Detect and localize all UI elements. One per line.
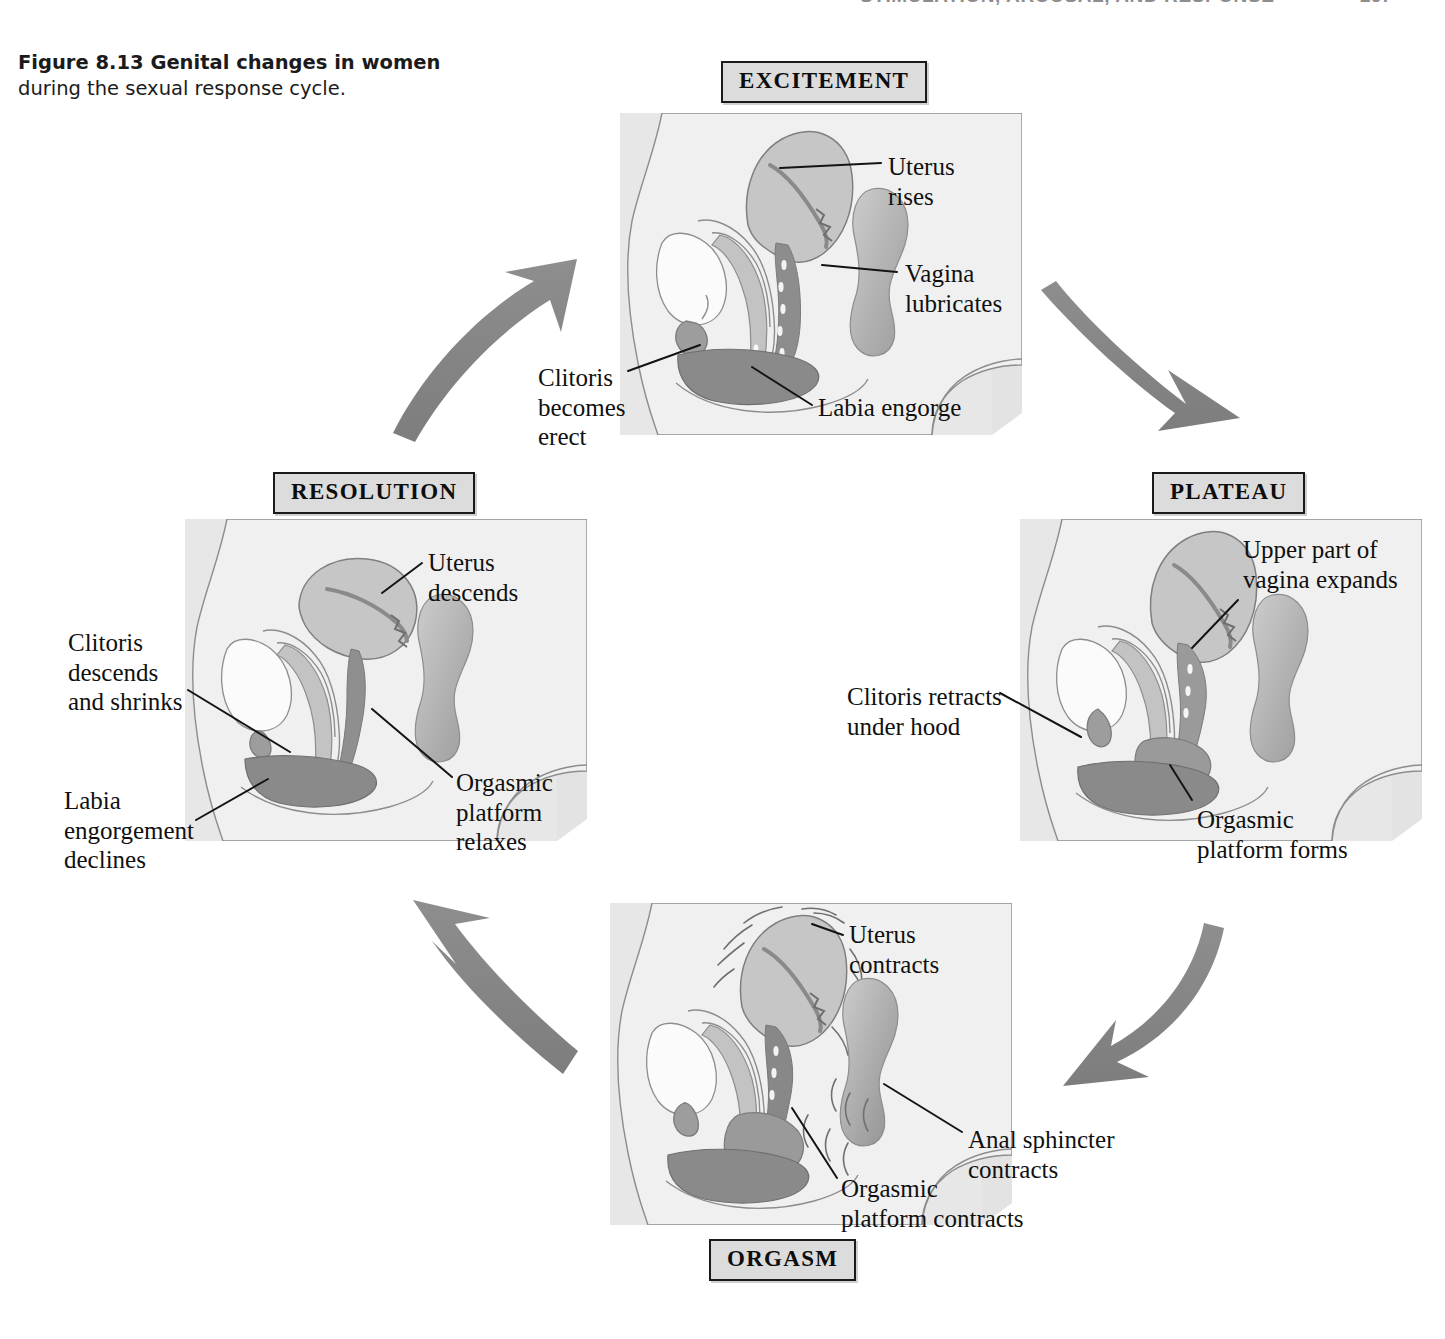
arrow-orgasm-to-resolution xyxy=(413,900,578,1074)
callout-resolution-clitoris: Clitoris descends and shrinks xyxy=(68,628,183,717)
figure-caption: Figure 8.13 Genital changes in women dur… xyxy=(18,50,448,101)
stage-label-resolution[interactable]: RESOLUTION xyxy=(273,472,475,514)
callout-plateau-orgasmic-platform: Orgasmic platform forms xyxy=(1197,805,1348,864)
stage-label-excitement[interactable]: EXCITEMENT xyxy=(721,61,927,103)
running-head: STIMULATION, AROUSAL, AND RESPONSE 267 xyxy=(0,0,1445,12)
arrow-excitement-to-plateau xyxy=(1041,281,1240,431)
running-head-title: STIMULATION, AROUSAL, AND RESPONSE xyxy=(860,0,1274,7)
callout-plateau-clitoris: Clitoris retracts under hood xyxy=(847,682,1002,741)
callout-plateau-upper-vagina: Upper part of vagina expands xyxy=(1243,535,1398,594)
callout-excitement-labia: Labia engorge xyxy=(818,393,961,423)
callout-orgasm-uterus: Uterus contracts xyxy=(849,920,939,979)
stage-label-orgasm[interactable]: ORGASM xyxy=(709,1239,856,1281)
callout-resolution-orgasmic-platform: Orgasmic platform relaxes xyxy=(456,768,553,857)
callout-resolution-labia: Labia engorgement declines xyxy=(64,786,194,875)
callout-excitement-vagina: Vagina lubricates xyxy=(905,259,1002,318)
callout-resolution-uterus: Uterus descends xyxy=(428,548,518,607)
arrow-plateau-to-orgasm xyxy=(1063,923,1224,1086)
callout-excitement-clitoris: Clitoris becomes erect xyxy=(538,363,625,452)
stage-label-plateau[interactable]: PLATEAU xyxy=(1152,472,1305,514)
figure-caption-bold: Figure 8.13 Genital changes in women xyxy=(18,51,440,74)
callout-orgasm-orgasmic-platform: Orgasmic platform contracts xyxy=(841,1174,1024,1233)
page-number: 267 xyxy=(1360,0,1392,7)
callout-excitement-uterus: Uterus rises xyxy=(888,152,955,211)
figure-caption-rest: during the sexual response cycle. xyxy=(18,77,346,100)
